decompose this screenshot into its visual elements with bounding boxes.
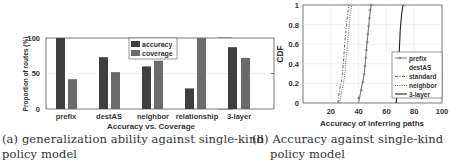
right-xtick-20: 20 bbox=[327, 107, 335, 116]
right-ytick-0.4: 0.4 bbox=[289, 60, 300, 69]
right-xtick-40: 40 bbox=[354, 107, 362, 116]
right-ytick-0.8: 0.8 bbox=[289, 21, 299, 30]
right-ylabel: CDF bbox=[275, 45, 285, 62]
right-ytick-1: 1 bbox=[295, 1, 299, 10]
caption-a-line2: policy model bbox=[2, 147, 77, 162]
caption-b-line2: policy model bbox=[270, 147, 345, 162]
right-ytick-0: 0 bbox=[295, 99, 299, 108]
right-ytick-0.2: 0.2 bbox=[289, 79, 299, 88]
legend-label-prefix: prefix bbox=[409, 55, 427, 63]
caption-a-line1: (a) generalization ability against singl… bbox=[2, 132, 264, 147]
right-ytick-0.6: 0.6 bbox=[289, 40, 299, 49]
legend-label-neighbor: neighbor bbox=[409, 82, 437, 90]
legend-label-3layer: 3-layer bbox=[409, 91, 430, 99]
right-xtick-60: 60 bbox=[382, 107, 390, 116]
right-xtick-80: 80 bbox=[410, 107, 418, 116]
legend-label-standard: standard bbox=[409, 73, 436, 80]
right-xtick-100: 100 bbox=[436, 107, 449, 116]
right-xlabel: Accuracy of inferring paths bbox=[320, 119, 425, 128]
caption-b-line1: (b) Accuracy against single-kind bbox=[252, 132, 443, 147]
legend-label-destAS: destAS bbox=[409, 64, 432, 71]
